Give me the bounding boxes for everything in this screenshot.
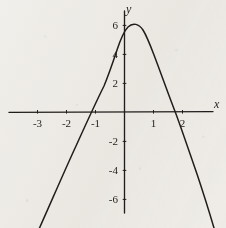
y-tick-label-pos4: 4 <box>113 48 119 60</box>
x-axis <box>9 110 213 114</box>
x-tick-label-neg3: -3 <box>33 117 43 129</box>
y-tick-label-pos2: 2 <box>113 77 119 89</box>
y-tick-label-neg4: -4 <box>109 164 119 176</box>
x-tick-label-pos1: 1 <box>151 117 157 129</box>
x-tick-label-neg1: -1 <box>91 117 100 129</box>
y-tick-label-pos6: 6 <box>113 19 119 31</box>
plot-canvas: -3 -2 -1 1 2 6 4 2 -2 -4 -6 y x <box>0 0 226 228</box>
y-axis-label: y <box>125 2 132 16</box>
parabola-figure: -3 -2 -1 1 2 6 4 2 -2 -4 -6 y x <box>0 0 226 228</box>
y-tick-label-neg6: -6 <box>109 193 119 205</box>
x-tick-label-neg2: -2 <box>62 117 71 129</box>
y-tick-label-neg2: -2 <box>109 135 118 147</box>
x-axis-label: x <box>213 97 220 111</box>
x-tick-label-pos2: 2 <box>180 117 186 129</box>
